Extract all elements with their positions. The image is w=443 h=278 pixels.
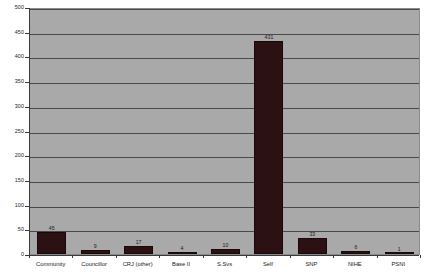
bar xyxy=(298,238,327,254)
y-axis-tick-mark xyxy=(25,132,29,133)
bar-value-label: 6 xyxy=(336,245,376,250)
bar-value-label: 431 xyxy=(249,35,289,40)
gridline xyxy=(30,255,419,256)
y-axis-tick-mark xyxy=(25,33,29,34)
y-axis-tick-mark xyxy=(25,156,29,157)
x-axis-tick-mark xyxy=(420,255,421,258)
y-axis-line xyxy=(29,8,30,256)
bar-value-label: 4 xyxy=(162,246,202,251)
x-axis-tick-mark xyxy=(246,255,247,258)
x-axis-tick-mark xyxy=(203,255,204,258)
y-axis-tick-label: 300 xyxy=(2,104,24,109)
x-axis-tick-label: PSNI xyxy=(363,261,433,268)
y-axis-tick-mark xyxy=(25,82,29,83)
bar-value-label: 10 xyxy=(206,243,246,248)
y-axis-tick-mark xyxy=(25,230,29,231)
bar xyxy=(124,246,153,254)
y-axis-tick-label: 100 xyxy=(2,203,24,208)
x-axis-tick-mark xyxy=(290,255,291,258)
bar xyxy=(254,41,283,254)
x-axis-tick-mark xyxy=(72,255,73,258)
y-axis-tick-label: 350 xyxy=(2,79,24,84)
bar xyxy=(37,232,66,254)
x-axis-tick-mark xyxy=(377,255,378,258)
y-axis-tick-label: 150 xyxy=(2,178,24,183)
bar xyxy=(81,250,110,254)
x-axis-tick-mark xyxy=(29,255,30,258)
bar-value-label: 1 xyxy=(379,247,419,252)
x-axis-tick-mark xyxy=(159,255,160,258)
y-axis-tick-label: 50 xyxy=(2,227,24,232)
y-axis-tick-label: 500 xyxy=(2,5,24,10)
bar-value-label: 33 xyxy=(292,232,332,237)
bar-value-label: 9 xyxy=(75,244,115,249)
bars-layer: 459174104313361 xyxy=(30,9,419,254)
x-axis-tick-mark xyxy=(116,255,117,258)
y-axis-tick-label: 250 xyxy=(2,129,24,134)
plot-area: 459174104313361 xyxy=(29,8,420,255)
y-axis-tick-label: 0 xyxy=(2,252,24,257)
bar-value-label: 17 xyxy=(119,240,159,245)
y-axis-tick-label: 450 xyxy=(2,30,24,35)
y-axis-tick-mark xyxy=(25,8,29,9)
bar-chart: 459174104313361 050100150200250300350400… xyxy=(0,0,443,278)
y-axis-tick-mark xyxy=(25,107,29,108)
y-axis-tick-mark xyxy=(25,181,29,182)
bar xyxy=(168,252,197,254)
y-axis-tick-label: 200 xyxy=(2,153,24,158)
bar xyxy=(211,249,240,254)
y-axis-tick-mark xyxy=(25,57,29,58)
bar xyxy=(385,252,414,254)
y-axis-tick-mark xyxy=(25,206,29,207)
bar xyxy=(341,251,370,254)
y-axis-tick-label: 400 xyxy=(2,54,24,59)
x-axis-tick-mark xyxy=(333,255,334,258)
bar-value-label: 45 xyxy=(32,226,72,231)
